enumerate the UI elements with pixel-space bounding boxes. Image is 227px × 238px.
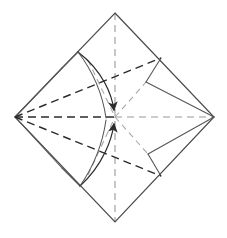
diagram-background [0,0,227,238]
origami-diagram-container [0,0,227,238]
origami-diagram [0,0,227,238]
